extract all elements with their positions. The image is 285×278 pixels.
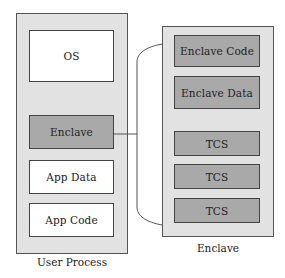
connector-bracket	[0, 0, 285, 278]
